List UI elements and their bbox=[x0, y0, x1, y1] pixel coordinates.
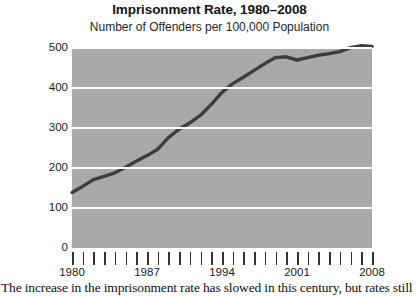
y-tick-label: 0 bbox=[2, 242, 68, 253]
x-tick-label: 2001 bbox=[284, 266, 310, 278]
y-axis-labels: 0100200300400500 bbox=[0, 0, 68, 298]
chart-figure: Imprisonment Rate, 1980–2008 Number of O… bbox=[0, 0, 419, 298]
x-axis-ticks bbox=[72, 252, 372, 265]
gridline bbox=[72, 127, 372, 129]
x-tick-mark bbox=[201, 252, 203, 265]
x-tick-mark bbox=[83, 252, 85, 265]
y-tick-label: 200 bbox=[2, 162, 68, 173]
x-tick-mark bbox=[254, 252, 256, 265]
x-tick-label: 1994 bbox=[209, 266, 235, 278]
x-tick-mark bbox=[318, 252, 320, 265]
x-tick-mark bbox=[243, 252, 245, 265]
x-tick-mark bbox=[233, 252, 235, 265]
x-tick-mark bbox=[72, 252, 74, 265]
x-axis-labels: 19801987199420012008 bbox=[0, 266, 419, 280]
x-tick-mark bbox=[179, 252, 181, 265]
y-tick-label: 300 bbox=[2, 122, 68, 133]
y-tick-label: 100 bbox=[2, 202, 68, 213]
x-tick-mark bbox=[265, 252, 267, 265]
plot-area bbox=[72, 48, 372, 248]
gridline bbox=[72, 47, 372, 49]
x-tick-mark bbox=[276, 252, 278, 265]
x-tick-mark bbox=[372, 252, 374, 265]
x-tick-mark bbox=[93, 252, 95, 265]
figure-caption: The increase in the imprisonment rate ha… bbox=[1, 280, 419, 296]
x-tick-label: 1987 bbox=[134, 266, 160, 278]
x-tick-mark bbox=[351, 252, 353, 265]
gridline bbox=[72, 207, 372, 209]
x-tick-mark bbox=[286, 252, 288, 265]
y-tick-label: 500 bbox=[2, 42, 68, 53]
x-tick-mark bbox=[340, 252, 342, 265]
x-tick-mark bbox=[104, 252, 106, 265]
gridline bbox=[72, 87, 372, 89]
y-tick-label: 400 bbox=[2, 82, 68, 93]
x-tick-mark bbox=[168, 252, 170, 265]
x-tick-mark bbox=[222, 252, 224, 265]
x-tick-mark bbox=[297, 252, 299, 265]
x-tick-mark bbox=[190, 252, 192, 265]
x-tick-mark bbox=[136, 252, 138, 265]
x-tick-mark bbox=[211, 252, 213, 265]
x-tick-mark bbox=[308, 252, 310, 265]
x-tick-label: 1980 bbox=[59, 266, 85, 278]
x-tick-label: 2008 bbox=[359, 266, 385, 278]
x-tick-mark bbox=[329, 252, 331, 265]
x-tick-mark bbox=[158, 252, 160, 265]
x-tick-mark bbox=[126, 252, 128, 265]
data-line bbox=[72, 48, 372, 248]
x-tick-mark bbox=[147, 252, 149, 265]
x-tick-mark bbox=[115, 252, 117, 265]
x-tick-mark bbox=[361, 252, 363, 265]
gridline bbox=[72, 167, 372, 169]
